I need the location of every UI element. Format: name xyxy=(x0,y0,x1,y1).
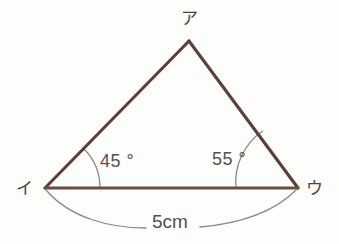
vertex-label-left: イ xyxy=(16,180,33,197)
angle-label-right: 55 ° xyxy=(212,150,246,168)
angle-arc-left xyxy=(83,148,100,188)
measure-arc-right-segment xyxy=(200,190,296,227)
triangle-diagram-svg xyxy=(0,0,339,244)
vertex-label-right: ウ xyxy=(306,180,323,197)
measure-arc-left-segment xyxy=(46,190,146,228)
angle-label-left: 45 ° xyxy=(100,152,134,170)
measurement-label-base-length: 5cm xyxy=(152,212,188,231)
geometry-figure-canvas: ア イ ウ 45 ° 55 ° 5cm xyxy=(0,0,339,244)
vertex-label-apex: ア xyxy=(181,10,198,27)
